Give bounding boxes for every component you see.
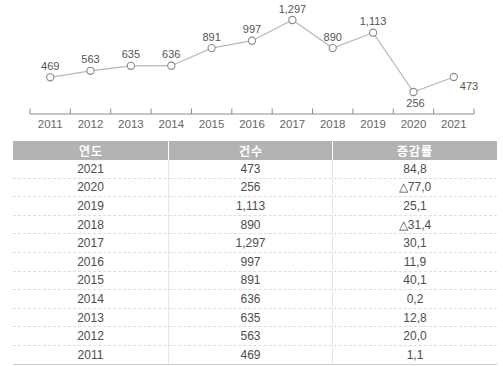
table-header-rate: 증감률 [332, 141, 497, 160]
table-cell-count: 891 [168, 272, 332, 290]
chart-marker [289, 16, 296, 23]
table-row: 201699711,9 [13, 253, 497, 272]
line-chart-canvas: 4692011563201263520136362014891201599720… [0, 0, 503, 138]
x-axis-label: 2011 [38, 118, 63, 130]
table-cell-count: 469 [168, 346, 332, 364]
table-cell-year: 2018 [13, 216, 168, 234]
chart-point-label: 469 [41, 60, 59, 72]
chart-marker [168, 62, 175, 69]
chart-point-label: 891 [202, 31, 220, 43]
table-row: 20114691,1 [13, 346, 497, 365]
table-cell-rate: 20,0 [332, 327, 497, 345]
chart-marker [208, 45, 215, 52]
table-cell-year: 2019 [13, 197, 168, 215]
table-cell-rate: 11,9 [332, 253, 497, 271]
x-axis-label: 2014 [159, 118, 185, 130]
chart-point-label: 636 [162, 48, 180, 60]
table-row: 2018890△31,4 [13, 216, 497, 235]
table-header-count: 건수 [168, 141, 332, 160]
chart-marker [370, 29, 377, 36]
chart-point-label: 473 [460, 80, 478, 92]
chart-point-label: 563 [81, 53, 99, 65]
x-axis-label: 2021 [441, 118, 467, 130]
chart-point-label: 1,297 [279, 3, 307, 15]
chart-marker [248, 37, 255, 44]
table-cell-rate: △77,0 [332, 179, 497, 197]
table-cell-year: 2016 [13, 253, 168, 271]
table-cell-year: 2021 [13, 160, 168, 178]
chart-point-label: 890 [324, 31, 342, 43]
table-cell-rate: 12,8 [332, 309, 497, 327]
x-axis-label: 2018 [320, 118, 346, 130]
table-cell-rate: △31,4 [332, 216, 497, 234]
chart-point-label: 997 [243, 23, 261, 35]
table-cell-year: 2013 [13, 309, 168, 327]
table-cell-count: 1,113 [168, 197, 332, 215]
table-cell-count: 1,297 [168, 234, 332, 252]
table-cell-rate: 25,1 [332, 197, 497, 215]
table-cell-rate: 30,1 [332, 234, 497, 252]
x-axis-label: 2019 [360, 118, 386, 130]
table-cell-count: 473 [168, 160, 332, 178]
table-row: 201256320,0 [13, 327, 497, 346]
line-chart: 4692011563201263520136362014891201599720… [0, 0, 503, 138]
x-axis-label: 2017 [280, 118, 306, 130]
table-cell-count: 997 [168, 253, 332, 271]
table-cell-year: 2011 [13, 346, 168, 364]
table-header-year: 연도 [13, 141, 168, 160]
chart-marker [329, 45, 336, 52]
chart-marker [47, 74, 54, 81]
chart-point-label: 635 [122, 48, 140, 60]
table-cell-rate: 1,1 [332, 346, 497, 364]
chart-marker [450, 73, 457, 80]
table-header-row: 연도 건수 증감률 [13, 141, 497, 160]
table-row: 2020256△77,0 [13, 179, 497, 198]
table-cell-year: 2020 [13, 179, 168, 197]
table-cell-rate: 40,1 [332, 272, 497, 290]
chart-point-label: 256 [406, 97, 424, 109]
x-axis-label: 2012 [78, 118, 104, 130]
table-row: 20146360,2 [13, 290, 497, 309]
table-cell-count: 563 [168, 327, 332, 345]
data-table: 연도 건수 증감률 202147384,82020256△77,020191,1… [13, 141, 497, 365]
chart-marker [127, 62, 134, 69]
x-axis-label: 2013 [118, 118, 144, 130]
x-axis-label: 2020 [401, 118, 427, 130]
x-axis-label: 2015 [199, 118, 225, 130]
table-row: 20171,29730,1 [13, 234, 497, 253]
table-row: 202147384,8 [13, 160, 497, 179]
table-cell-year: 2014 [13, 290, 168, 308]
table-cell-year: 2017 [13, 234, 168, 252]
chart-marker [87, 67, 94, 74]
chart-marker [410, 88, 417, 95]
table-body: 202147384,82020256△77,020191,11325,12018… [13, 160, 497, 365]
table-cell-rate: 0,2 [332, 290, 497, 308]
table-cell-count: 635 [168, 309, 332, 327]
table-cell-count: 890 [168, 216, 332, 234]
table-cell-count: 256 [168, 179, 332, 197]
table-cell-count: 636 [168, 290, 332, 308]
table-row: 20191,11325,1 [13, 197, 497, 216]
table-row: 201589140,1 [13, 272, 497, 291]
chart-point-label: 1,113 [360, 15, 387, 27]
table-row: 201363512,8 [13, 309, 497, 328]
table-cell-year: 2015 [13, 272, 168, 290]
x-axis-label: 2016 [239, 118, 265, 130]
statistics-figure: 4692011563201263520136362014891201599720… [0, 0, 503, 366]
table-cell-year: 2012 [13, 327, 168, 345]
table-cell-rate: 84,8 [332, 160, 497, 178]
